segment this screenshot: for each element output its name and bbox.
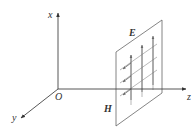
x-axis-label: x [47,9,53,20]
z-axis-label: z [186,91,191,102]
wave-diagram: x O y z E H [0,0,196,133]
electric-field-label: E [128,27,136,38]
magnetic-field-label: H [103,103,113,114]
origin-label: O [55,91,62,102]
y-axis-label: y [11,112,17,123]
y-axis [21,89,58,118]
wavefront-plane [116,20,162,126]
